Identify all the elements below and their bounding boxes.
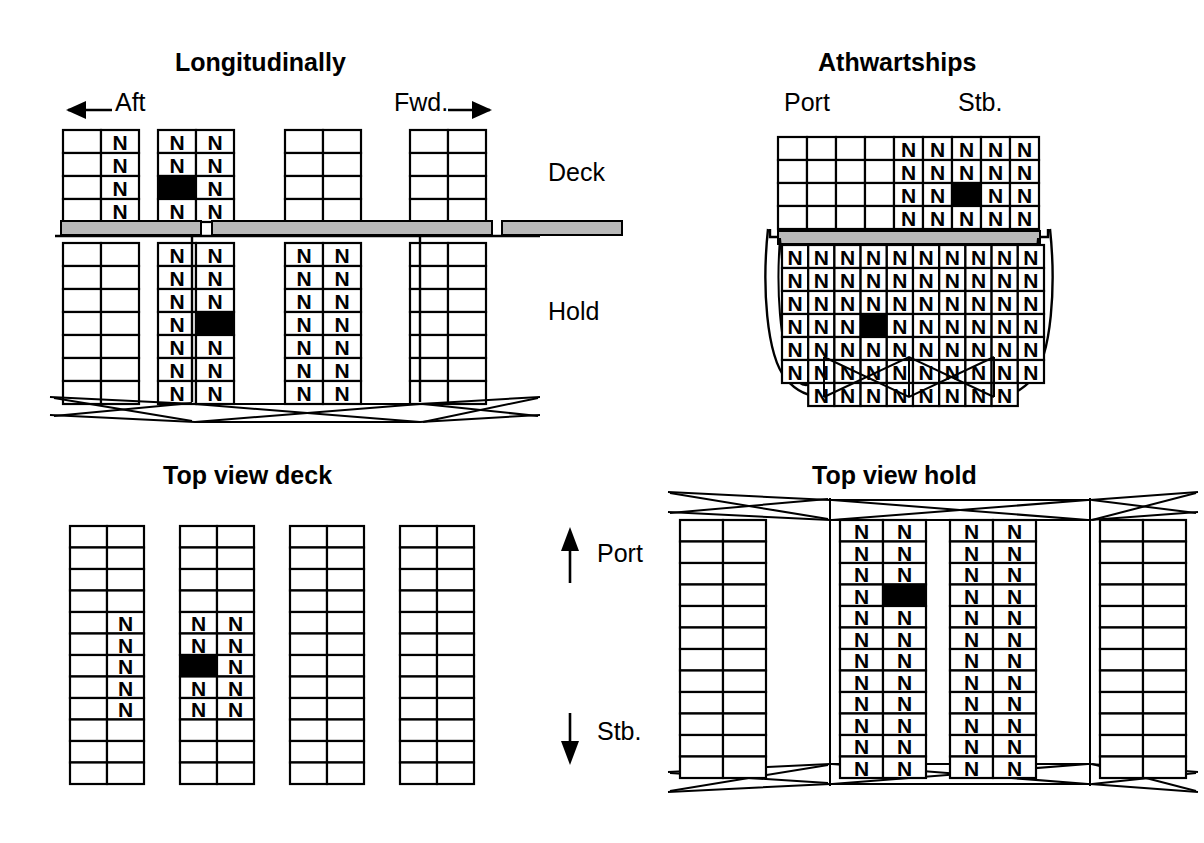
container-marker: N [814, 361, 829, 384]
container-marker: N [1017, 207, 1032, 230]
container-marker: N [866, 384, 881, 407]
lon-deck-cell [285, 153, 323, 176]
container-marker: N [866, 246, 881, 269]
top-deck-cell [290, 569, 327, 591]
top-deck-cell [400, 720, 437, 742]
top-deck-cell [327, 569, 364, 591]
top-deck-cell [400, 655, 437, 677]
lon-deck-cell [410, 130, 448, 153]
container-marker: N [897, 520, 912, 543]
top-deck-cell [180, 720, 217, 742]
top-hold-cell [1143, 585, 1186, 607]
container-marker: N [959, 161, 974, 184]
lon-hold-cell [410, 289, 448, 312]
container-marker: N [169, 359, 184, 382]
container-marker: N [1007, 757, 1022, 780]
container-marker: N [919, 246, 934, 269]
top-deck-cell [70, 548, 107, 570]
top-deck-cell [437, 526, 474, 548]
container-marker: N [334, 290, 349, 313]
container-marker: N [1007, 692, 1022, 715]
container-marker: N [866, 338, 881, 361]
ath-deck-cell [952, 183, 981, 206]
container-marker: N [112, 200, 127, 223]
longitudinal-deck-grid: NNNNNNNNNNN [63, 130, 486, 223]
top-hold-cell [723, 628, 766, 650]
top-deck-cell [70, 741, 107, 763]
top-hold-cell [1143, 735, 1186, 757]
container-marker: N [919, 315, 934, 338]
container-marker: N [997, 315, 1012, 338]
container-marker: N [788, 246, 803, 269]
top-hold-cell [1143, 757, 1186, 779]
container-marker: N [964, 649, 979, 672]
top-hold-cell [723, 757, 766, 779]
lon-deck-cell [63, 176, 101, 199]
top-hold-cell [723, 563, 766, 585]
top-view-deck-diagram: NNNNNNNNNNNNNN [60, 522, 560, 792]
lon-hold-cell [448, 312, 486, 335]
container-marker: N [854, 542, 869, 565]
top-deck-cell [70, 655, 107, 677]
lon-hold-cell [448, 289, 486, 312]
aft-fwd-arrows [50, 96, 510, 126]
lon-hold-cell [448, 243, 486, 266]
container-marker: N [901, 207, 916, 230]
container-marker: N [207, 290, 222, 313]
container-marker: N [892, 315, 907, 338]
container-marker: N [334, 267, 349, 290]
top-deck-cell [70, 720, 107, 742]
container-marker: N [854, 628, 869, 651]
container-marker: N [930, 184, 945, 207]
top-hold-cell [1100, 692, 1143, 714]
top-hold-cell [680, 671, 723, 693]
container-marker: N [964, 520, 979, 543]
lon-deck-cell [410, 199, 448, 222]
container-marker: N [814, 315, 829, 338]
container-marker: N [788, 361, 803, 384]
container-marker: N [169, 382, 184, 405]
athwartships-port-label: Port [784, 88, 830, 117]
container-marker: N [814, 246, 829, 269]
top-deck-cell [290, 591, 327, 613]
top-deck-cell [290, 655, 327, 677]
top-deck-cell [437, 655, 474, 677]
lon-hold-cell [101, 266, 139, 289]
lon-hold-cell [448, 266, 486, 289]
top-deck-cell [217, 763, 254, 785]
lon-hold-cell [63, 312, 101, 335]
top-deck-cell [180, 526, 217, 548]
container-marker: N [228, 677, 243, 700]
container-marker: N [169, 131, 184, 154]
top-hold-cell [680, 714, 723, 736]
top-hold-cell [1143, 714, 1186, 736]
top-deck-cell [437, 634, 474, 656]
lon-deck-cell [63, 130, 101, 153]
container-marker: N [854, 735, 869, 758]
top-deck-cell [70, 526, 107, 548]
container-marker: N [964, 563, 979, 586]
container-marker: N [897, 628, 912, 651]
container-marker: N [1023, 269, 1038, 292]
top-view-deck-grid: NNNNNNNNNNNNNN [70, 526, 474, 784]
container-marker: N [901, 161, 916, 184]
container-marker: N [169, 290, 184, 313]
ath-deck-cell [865, 206, 894, 229]
top-deck-cell [70, 591, 107, 613]
container-marker: N [296, 313, 311, 336]
container-marker: N [207, 131, 222, 154]
container-marker: N [988, 184, 1003, 207]
top-deck-cell [327, 548, 364, 570]
athwartships-title: Athwartships [818, 48, 976, 77]
top-hold-cell [723, 542, 766, 564]
top-deck-cell [290, 677, 327, 699]
ath-deck-cell [836, 183, 865, 206]
lon-hold-cell [101, 358, 139, 381]
container-marker: N [919, 338, 934, 361]
lon-hold-cell [101, 243, 139, 266]
top-deck-cell [70, 634, 107, 656]
container-marker: N [1007, 649, 1022, 672]
top-deck-cell [437, 720, 474, 742]
top-deck-cell [70, 763, 107, 785]
top-hold-cell [723, 649, 766, 671]
